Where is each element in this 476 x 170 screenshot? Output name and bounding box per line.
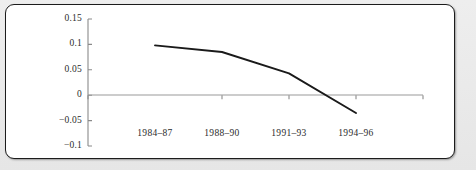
- y-tick-label: 0.05: [36, 65, 82, 75]
- y-tick-label: −0.1: [36, 141, 82, 151]
- x-tick-label: 1994–96: [316, 129, 396, 139]
- clipped-title-text: [64, 0, 294, 3]
- chart-frame: 0.150.10.050−0.05−0.1 1984–871988–901991…: [5, 4, 455, 159]
- chart-figure: 0.150.10.050−0.05−0.1 1984–871988–901991…: [0, 0, 476, 170]
- y-tick-label: 0.1: [36, 39, 82, 49]
- x-axis-ticks: [88, 95, 423, 99]
- y-tick-label: 0: [36, 90, 82, 100]
- y-axis-ticks: [88, 19, 92, 146]
- data-series-line: [155, 45, 356, 113]
- y-tick-label: −0.05: [36, 116, 82, 126]
- y-tick-label: 0.15: [36, 14, 82, 24]
